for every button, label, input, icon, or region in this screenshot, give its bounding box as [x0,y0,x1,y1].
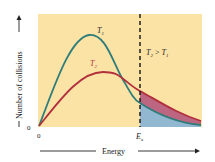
x-axis-label: Energy [102,147,125,156]
x-axis-arrowhead-icon [195,149,200,154]
plot-background [38,14,202,127]
energy-distribution-chart: T1 T2 T2 > T1 0 0 Ea Energy Number of co… [0,0,215,162]
x-axis-zero-label: 0 [37,132,41,140]
y-axis-label: Number of collisions [15,51,24,119]
temperature-comparison-label: T2 > T1 [146,48,168,58]
y-axis-label-group: Number of collisions [15,15,24,127]
ea-label: Ea [135,132,144,142]
y-axis-zero-label: 0 [27,124,31,132]
y-axis-arrowhead-icon [17,15,22,20]
